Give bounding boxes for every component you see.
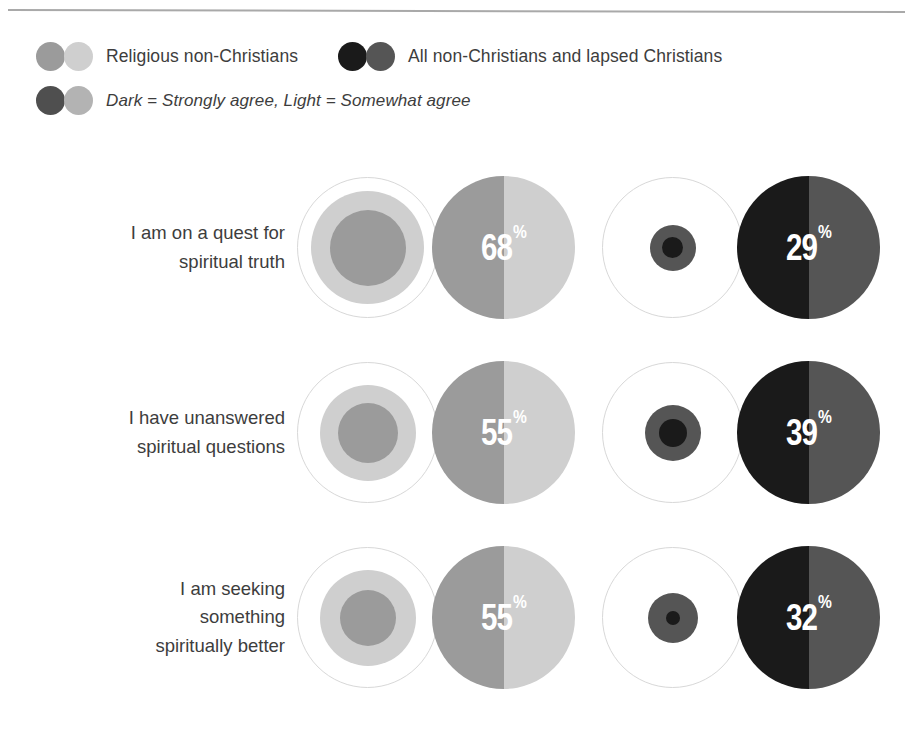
bubble-strongly-agree-circle [662, 237, 683, 258]
dial-value-number: 55 [481, 415, 512, 451]
legend-item-religious-non-christians[interactable]: Religious non-Christians [36, 42, 298, 71]
chart-row: I have unansweredspiritual questions55%3… [0, 340, 913, 525]
dial-percent-sign: % [513, 407, 526, 426]
dial-value-number: 68 [481, 230, 512, 266]
header-divider [8, 9, 905, 13]
legend-swatch-dark-icon [338, 42, 367, 71]
legend-row: Religious non-ChristiansAll non-Christia… [0, 38, 913, 86]
bubble-strongly-agree-circle [340, 590, 396, 646]
chart-rows: I am on a quest forspiritual truth68%29%… [0, 155, 913, 710]
chart-row: I am seekingsomethingspiritually better5… [0, 525, 913, 710]
split-value-circle[interactable]: 68% [432, 176, 575, 319]
row-label-line: I have unanswered [129, 404, 285, 432]
proportional-bubble [601, 546, 744, 689]
row-label-line: spiritually better [155, 632, 285, 660]
legend-item-all-non-christians-lapsed[interactable]: All non-Christians and lapsed Christians [338, 42, 722, 71]
legend-swatch-light-icon [64, 42, 93, 71]
legend-row: Dark = Strongly agree, Light = Somewhat … [0, 86, 913, 134]
legend-swatch-pair [36, 42, 93, 71]
dial-value-label: 29% [750, 176, 867, 319]
dial-value-number: 29 [786, 230, 817, 266]
dial-value-number: 32 [786, 600, 817, 636]
dial-value-label: 32% [750, 546, 867, 689]
row-label-line: spiritual truth [179, 248, 285, 276]
legend-swatch-dark-icon [36, 42, 65, 71]
bubble-strongly-agree-circle [659, 419, 687, 447]
row-label: I am on a quest forspiritual truth [20, 155, 285, 340]
dial-value-number: 55 [481, 600, 512, 636]
proportional-bubble [601, 176, 744, 319]
dial-value-label: 55% [445, 361, 562, 504]
bubble-strongly-agree-circle [330, 210, 406, 286]
split-value-circle[interactable]: 55% [432, 546, 575, 689]
legend-swatch-pair [338, 42, 395, 71]
row-label: I am seekingsomethingspiritually better [20, 525, 285, 710]
row-label: I have unansweredspiritual questions [20, 340, 285, 525]
proportional-bubble [296, 176, 439, 319]
proportional-bubble [296, 361, 439, 504]
legend-swatch-light-icon [64, 86, 93, 115]
proportional-bubble [601, 361, 744, 504]
dial-percent-sign: % [513, 592, 526, 611]
dial-percent-sign: % [513, 222, 526, 241]
legend-label: Religious non-Christians [106, 48, 298, 66]
dial-value-label: 55% [445, 546, 562, 689]
dial-value-number: 39 [786, 415, 817, 451]
split-value-circle[interactable]: 29% [737, 176, 880, 319]
dial-percent-sign: % [818, 407, 831, 426]
legend-swatch-dark-icon [36, 86, 65, 115]
chart-figure: Religious non-ChristiansAll non-Christia… [0, 0, 913, 733]
bubble-strongly-agree-circle [666, 611, 680, 625]
legend-label: Dark = Strongly agree, Light = Somewhat … [106, 92, 471, 109]
row-label-line: I am seeking [180, 575, 285, 603]
split-value-circle[interactable]: 55% [432, 361, 575, 504]
proportional-bubble [296, 546, 439, 689]
legend-swatch-pair [36, 86, 93, 115]
dial-value-label: 68% [445, 176, 562, 319]
dial-value-label: 39% [750, 361, 867, 504]
dial-percent-sign: % [818, 222, 831, 241]
row-label-line: something [200, 603, 285, 631]
legend-label: All non-Christians and lapsed Christians [408, 48, 722, 66]
dial-percent-sign: % [818, 592, 831, 611]
bubble-strongly-agree-circle [338, 403, 398, 463]
row-label-line: I am on a quest for [131, 219, 285, 247]
row-label-line: spiritual questions [137, 433, 285, 461]
legend-item-shade-key[interactable]: Dark = Strongly agree, Light = Somewhat … [36, 86, 471, 115]
split-value-circle[interactable]: 39% [737, 361, 880, 504]
chart-row: I am on a quest forspiritual truth68%29% [0, 155, 913, 340]
split-value-circle[interactable]: 32% [737, 546, 880, 689]
chart-legend: Religious non-ChristiansAll non-Christia… [0, 38, 913, 134]
legend-swatch-light-icon [366, 42, 395, 71]
